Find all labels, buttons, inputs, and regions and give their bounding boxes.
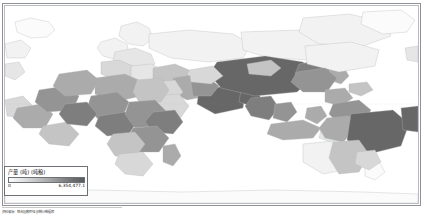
legend-title: 产量 (吨) (吨粮) [8,169,84,175]
legend-panel[interactable]: 产量 (吨) (吨粮) 0 6,354,477.1 [4,166,88,196]
legend-min-value: 0 [8,183,11,188]
country-brazil-wrap-east [401,106,418,132]
legend-scale: 0 6,354,477.1 [8,183,85,191]
map-screenshot: .c{stroke:#b4b6ba;stroke-width:0.35;} .v… [0,0,427,223]
caption-divider [2,207,122,208]
legend-color-ramp [8,177,85,183]
country-pacific-wrap-east [405,46,418,62]
legend-max-value: 6,354,477.1 [58,183,85,188]
country-egypt-libya [133,78,169,102]
source-caption: 资料来源：联合国粮农组织统计数据库 [2,210,252,215]
